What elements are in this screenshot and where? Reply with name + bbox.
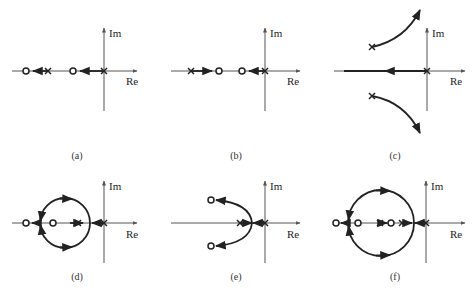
re-label: Re	[450, 75, 462, 87]
im-label: Im	[432, 27, 445, 39]
caption-f: (f)	[390, 271, 400, 283]
zero-marker	[239, 68, 245, 74]
re-label: Re	[287, 228, 299, 240]
locus-branch-upper	[216, 200, 252, 223]
locus-arrow	[41, 215, 42, 221]
locus-branch-lower	[216, 223, 252, 246]
locus-branch-lower	[372, 96, 420, 133]
zero-marker	[208, 243, 214, 249]
im-label: Im	[109, 180, 122, 192]
panel-c: Im Re (c)	[334, 10, 465, 162]
re-label: Re	[287, 75, 299, 87]
caption-b: (b)	[230, 150, 242, 162]
panel-f: Im Re (f)	[333, 180, 465, 283]
panel-e: Im Re (e)	[171, 180, 300, 283]
locus-arrow	[41, 225, 42, 231]
caption-c: (c)	[389, 150, 400, 162]
im-label: Im	[270, 27, 283, 39]
im-label: Im	[109, 27, 122, 39]
locus-arrow	[376, 255, 390, 256]
zero-marker	[355, 220, 361, 226]
zero-marker	[208, 197, 214, 203]
panel-a: Im Re (a)	[12, 27, 138, 162]
locus-branch-upper	[372, 10, 420, 47]
re-label: Re	[126, 228, 138, 240]
panel-b: Im Re (b)	[171, 27, 300, 162]
locus-arrow	[349, 226, 350, 233]
root-locus-figure: Im Re (a) Im Re (b) Im Re (c)	[0, 0, 473, 296]
caption-e: (e)	[230, 271, 241, 283]
re-label: Re	[126, 75, 138, 87]
panel-d: Im Re (d)	[12, 180, 138, 283]
im-label: Im	[270, 180, 283, 192]
zero-marker	[23, 68, 29, 74]
locus-arrow	[60, 247, 72, 248]
zero-marker	[388, 220, 394, 226]
caption-d: (d)	[71, 271, 83, 283]
zero-marker	[216, 68, 222, 74]
locus-arrow	[60, 199, 72, 200]
locus-arrow	[349, 213, 350, 220]
caption-a: (a)	[71, 150, 82, 162]
zero-marker	[50, 220, 56, 226]
zero-marker	[23, 220, 29, 226]
re-label: Re	[450, 228, 462, 240]
locus-arrow	[376, 190, 390, 191]
zero-marker	[333, 220, 339, 226]
zero-marker	[70, 68, 76, 74]
im-label: Im	[431, 180, 444, 192]
